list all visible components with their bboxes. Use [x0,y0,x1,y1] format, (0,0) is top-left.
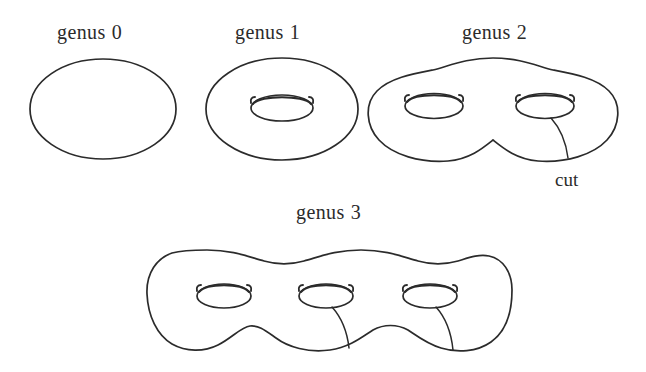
genus-3-cut-curve-1 [332,307,349,348]
figure-canvas [0,0,646,372]
genus-3-label-word: genus [296,201,345,223]
genus-0-label: genus0 [57,22,122,42]
genus-0-shape [30,59,176,159]
genus-figure: genus0 genus1 genus2 genus3 cut [0,0,646,372]
genus-3-shape [147,250,512,351]
genus-1-shape [206,58,358,160]
genus-2-cut-curve [551,118,568,158]
genus-2-shape [368,58,618,161]
genus-2-label-word: genus [462,21,511,43]
genus-0-label-number: 0 [112,21,122,43]
genus-1-label-number: 1 [290,21,300,43]
genus-1-label: genus1 [235,22,300,42]
genus-3-outline [147,250,512,351]
genus-0-label-word: genus [57,21,106,43]
genus-1-label-word: genus [235,21,284,43]
genus-3-label-number: 3 [351,201,361,223]
genus-3-cut-curve-2 [436,307,453,350]
genus-2-label-number: 2 [517,21,527,43]
cut-label: cut [555,170,578,189]
genus-2-label: genus2 [462,22,527,42]
genus-3-label: genus3 [296,202,361,222]
genus-1-outline [206,58,358,160]
genus-0-outline [30,59,176,159]
